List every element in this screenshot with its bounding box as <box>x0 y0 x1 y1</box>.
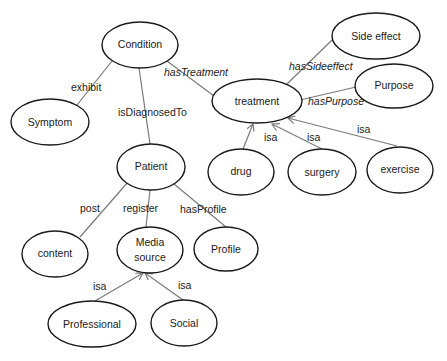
svg-text:Symptom: Symptom <box>28 116 73 128</box>
edge-isa-drug <box>243 124 253 149</box>
node-professional: Professional <box>48 301 136 347</box>
node-condition: Condition <box>102 22 178 68</box>
label-isa-surgery: isa <box>307 131 321 143</box>
node-patient: Patient <box>117 144 185 190</box>
label-exhibit: exhibit <box>71 81 101 93</box>
node-content: content <box>22 231 88 277</box>
node-drug: drug <box>208 149 274 195</box>
label-isa-professional: isa <box>93 280 107 292</box>
diagram-svg: exhibit isDiagnosedTo hasTreatment hasSi… <box>0 0 447 361</box>
label-post: post <box>80 202 100 214</box>
node-purpose: Purpose <box>355 64 433 108</box>
svg-text:Media: Media <box>136 236 165 248</box>
label-isDiagnosedTo: isDiagnosedTo <box>118 106 187 118</box>
node-treatment: treatment <box>212 79 302 123</box>
svg-text:Profile: Profile <box>211 243 241 255</box>
svg-text:drug: drug <box>230 165 251 177</box>
label-isa-social: isa <box>178 279 192 291</box>
svg-text:Purpose: Purpose <box>374 79 413 91</box>
label-register: register <box>123 202 159 214</box>
label-isa-exercise: isa <box>357 123 371 135</box>
svg-text:Condition: Condition <box>118 38 163 50</box>
svg-text:source: source <box>134 251 166 263</box>
svg-text:Side effect: Side effect <box>351 30 401 42</box>
edge-isa-exercise <box>288 118 397 146</box>
svg-text:Social: Social <box>170 317 199 329</box>
node-media-source: Media source <box>117 227 183 273</box>
svg-text:treatment: treatment <box>235 95 279 107</box>
node-social: Social <box>151 300 217 346</box>
svg-text:Professional: Professional <box>63 318 121 330</box>
svg-text:Patient: Patient <box>135 160 168 172</box>
node-side-effect: Side effect <box>332 13 420 59</box>
ontology-diagram: exhibit isDiagnosedTo hasTreatment hasSi… <box>0 0 447 361</box>
label-hasSideeffect: hasSideeffect <box>289 60 354 72</box>
svg-text:content: content <box>38 247 73 259</box>
node-profile: Profile <box>194 227 258 271</box>
node-symptom: Symptom <box>11 99 89 145</box>
label-hasTreatment: hasTreatment <box>164 66 229 78</box>
node-exercise: exercise <box>367 147 433 193</box>
svg-text:exercise: exercise <box>380 163 419 175</box>
label-hasProfile: hasProfile <box>180 203 227 215</box>
node-surgery: surgery <box>288 149 356 195</box>
label-hasPurpose: hasPurpose <box>308 95 364 107</box>
svg-text:surgery: surgery <box>304 166 340 178</box>
label-isa-drug: isa <box>264 131 278 143</box>
